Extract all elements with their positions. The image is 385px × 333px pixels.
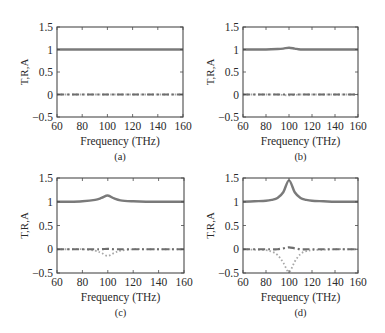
y-tick-label: 0: [47, 89, 53, 101]
x-tick-label: 100: [280, 120, 298, 132]
y-tick-label: 1.5: [39, 21, 54, 33]
y-tick-label: −0.5: [218, 111, 239, 123]
x-tick-label: 120: [125, 276, 143, 288]
x-tick-label: 60: [51, 120, 63, 132]
x-tick-label: 160: [175, 276, 193, 288]
series-group: [243, 48, 358, 96]
y-tick-label: 0: [47, 243, 53, 255]
tick-marks: [243, 178, 358, 273]
transmission-line: [243, 180, 358, 201]
x-tick-label: 160: [174, 120, 192, 132]
y-tick-label: −0.5: [218, 267, 239, 279]
y-tick-label: 0.5: [225, 66, 240, 78]
x-tick-label: 80: [260, 276, 272, 288]
x-tick-label: 60: [237, 120, 249, 132]
series-group: [57, 196, 184, 256]
y-tick-label: 0: [233, 243, 239, 255]
x-tick-label: 120: [303, 276, 321, 288]
x-tick-label: 140: [326, 120, 344, 132]
x-tick-label: 60: [51, 276, 63, 288]
x-axis-label: Frequency (THz): [80, 135, 160, 148]
x-tick-label: 80: [76, 120, 88, 132]
axes-frame: [243, 27, 358, 117]
x-tick-label: 100: [99, 276, 117, 288]
x-tick-label: 100: [99, 120, 117, 132]
y-axis-label: T,R,A: [204, 59, 216, 86]
panel-label: (a): [114, 151, 126, 163]
x-tick-label: 140: [150, 276, 168, 288]
y-tick-label: 0.5: [39, 220, 54, 232]
x-axis-label: Frequency (THz): [261, 135, 341, 148]
axes-frame: [57, 27, 183, 117]
y-axis-label: T,R,A: [18, 59, 30, 86]
y-tick-label: 0: [233, 89, 239, 101]
x-tick-label: 100: [280, 276, 298, 288]
y-tick-label: 1.5: [39, 172, 54, 184]
tick-marks: [57, 27, 183, 117]
x-tick-label: 120: [124, 120, 142, 132]
tick-marks: [57, 178, 184, 273]
y-tick-label: 1.5: [225, 21, 240, 33]
absorption-line: [243, 249, 358, 272]
y-tick-label: 1: [47, 44, 53, 56]
plot-panel-d: −0.500.511.56080100120140160Frequency (T…: [204, 172, 367, 319]
axes-frame: [57, 178, 184, 273]
transmission-line: [243, 48, 358, 50]
x-tick-label: 80: [260, 120, 272, 132]
plot-panel-b: −0.500.511.56080100120140160Frequency (T…: [204, 21, 367, 163]
panel-label: (b): [294, 151, 307, 163]
y-axis-label: T,R,A: [18, 212, 30, 239]
y-tick-label: 0.5: [225, 220, 240, 232]
series-group: [57, 50, 183, 95]
y-tick-label: 1: [233, 44, 239, 56]
panel-label: (c): [115, 307, 127, 319]
y-tick-label: 1: [233, 196, 239, 208]
panel-label: (d): [294, 307, 307, 319]
y-tick-label: −0.5: [32, 267, 53, 279]
x-tick-label: 160: [349, 276, 367, 288]
x-tick-label: 120: [303, 120, 321, 132]
x-tick-label: 160: [349, 120, 367, 132]
x-tick-label: 80: [77, 276, 89, 288]
x-tick-label: 140: [326, 276, 344, 288]
tick-marks: [243, 27, 358, 117]
x-axis-label: Frequency (THz): [261, 291, 341, 304]
plot-panel-a: −0.500.511.56080100120140160Frequency (T…: [18, 21, 192, 163]
y-tick-label: 0.5: [39, 66, 54, 78]
y-tick-label: 1.5: [225, 172, 240, 184]
plot-panel-c: −0.500.511.56080100120140160Frequency (T…: [18, 172, 193, 319]
x-tick-label: 60: [237, 276, 249, 288]
x-tick-label: 140: [149, 120, 167, 132]
series-group: [243, 180, 358, 272]
axes-frame: [243, 178, 358, 273]
y-tick-label: 1: [47, 196, 53, 208]
transmission-line: [57, 196, 184, 202]
y-axis-label: T,R,A: [204, 212, 216, 239]
y-tick-label: −0.5: [32, 111, 53, 123]
reflection-line: [57, 249, 184, 250]
x-axis-label: Frequency (THz): [81, 291, 161, 304]
figure-four-panel-tra: −0.500.511.56080100120140160Frequency (T…: [0, 0, 385, 333]
